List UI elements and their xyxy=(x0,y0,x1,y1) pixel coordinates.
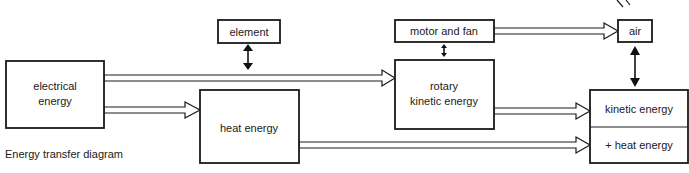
node-label: air xyxy=(629,25,642,37)
arrow-heat-to-heat-output xyxy=(299,137,590,153)
node-element: element xyxy=(218,20,280,43)
double-arrow-element xyxy=(243,44,253,70)
node-output-energy: kinetic energy + heat energy xyxy=(590,90,688,163)
node-label: heat energy xyxy=(220,122,279,134)
node-label: electrical xyxy=(33,80,76,92)
node-label: energy xyxy=(38,95,72,107)
double-arrow-motor-rotary xyxy=(441,44,447,57)
node-heat-energy: heat energy xyxy=(200,90,299,163)
node-label: kinetic energy xyxy=(605,103,673,115)
node-label: rotary xyxy=(430,80,459,92)
node-electrical-energy: electrical energy xyxy=(6,61,104,128)
node-label: motor and fan xyxy=(410,25,478,37)
node-label: kinetic energy xyxy=(410,95,478,107)
arrow-motor-to-air xyxy=(494,23,618,39)
air-motion-lines xyxy=(617,0,630,7)
energy-transfer-diagram: electrical energy element heat energy mo… xyxy=(0,0,689,173)
node-label: element xyxy=(229,26,268,38)
double-arrow-air-kinetic xyxy=(630,46,640,87)
node-motor-and-fan: motor and fan xyxy=(395,20,494,42)
node-air: air xyxy=(618,20,652,42)
arrow-electrical-to-rotary xyxy=(104,70,395,86)
diagram-caption: Energy transfer diagram xyxy=(5,148,123,160)
arrow-electrical-to-heat xyxy=(104,102,200,118)
arrow-rotary-to-kinetic xyxy=(494,103,590,119)
node-label: + heat energy xyxy=(605,139,673,151)
node-rotary-kinetic-energy: rotary kinetic energy xyxy=(395,60,494,129)
